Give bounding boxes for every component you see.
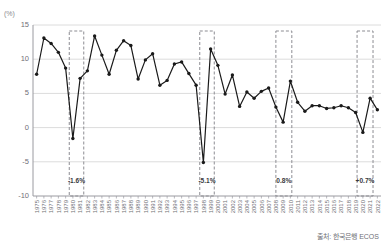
data-point-marker [252, 96, 255, 99]
x-axis-tick-label: 1999 [208, 199, 214, 213]
x-axis-tick-label: 2009 [280, 199, 286, 213]
x-axis-tick-label: 1988 [128, 199, 134, 213]
data-point-marker [100, 53, 103, 56]
data-point-marker [194, 83, 197, 86]
data-point-marker [368, 96, 371, 99]
data-point-marker [136, 77, 139, 80]
x-axis-tick-label: 1977 [48, 199, 54, 213]
x-axis-tick-label: 1994 [172, 199, 178, 213]
y-axis-tick-label: 5 [25, 88, 29, 97]
source-attribution: 출처: 한국은행 ECOS [317, 231, 379, 241]
data-point-marker [93, 34, 96, 37]
x-axis-tick-label: 1992 [157, 199, 163, 213]
data-point-marker [267, 86, 270, 89]
data-point-marker [165, 79, 168, 82]
data-point-marker [274, 105, 277, 108]
data-point-marker [144, 58, 147, 61]
x-axis-tick-label: 1976 [41, 199, 47, 213]
data-point-marker [71, 137, 74, 140]
data-point-marker [260, 90, 263, 93]
plot-area: 151050-5-10-1.6%-5.1%0.8%+0.7%1975197619… [0, 0, 385, 244]
x-axis-tick-label: 1975 [34, 199, 40, 213]
data-point-marker [173, 62, 176, 65]
x-axis-tick-label: 2006 [259, 199, 265, 213]
y-axis-tick-label: 15 [21, 20, 29, 29]
x-axis-tick-label: 1981 [77, 199, 83, 213]
x-axis-tick-label: 2001 [222, 199, 228, 213]
data-point-marker [347, 106, 350, 109]
data-point-marker [325, 107, 328, 110]
annotation-label: 0.8% [276, 177, 291, 184]
y-axis-tick-label: -5 [22, 157, 29, 166]
x-axis-tick-label: 2014 [317, 199, 323, 213]
x-axis-tick-label: 2015 [324, 199, 330, 213]
x-axis-tick-label: 1998 [201, 199, 207, 213]
x-axis-tick-label: 1991 [150, 199, 156, 213]
x-axis-tick-label: 2008 [273, 199, 279, 213]
x-axis-tick-label: 2005 [251, 199, 257, 213]
annotation-label: +0.7% [356, 177, 375, 184]
x-axis-tick-label: 1982 [85, 199, 91, 213]
x-axis-tick-label: 1984 [99, 199, 105, 213]
data-point-marker [296, 101, 299, 104]
x-axis-tick-label: 1997 [193, 199, 199, 213]
data-point-marker [209, 47, 212, 50]
data-point-marker [303, 109, 306, 112]
data-point-marker [115, 49, 118, 52]
annotation-label: -1.6% [68, 177, 85, 184]
data-point-marker [151, 52, 154, 55]
annotation-band [276, 31, 292, 196]
x-axis-tick-label: 1995 [179, 199, 185, 213]
data-point-marker [187, 72, 190, 75]
data-point-marker [122, 39, 125, 42]
data-point-marker [376, 108, 379, 111]
x-axis-tick-label: 2022 [375, 199, 381, 213]
x-axis-tick-label: 2020 [360, 199, 366, 213]
data-point-marker [339, 104, 342, 107]
y-axis-tick-label: 0 [25, 123, 29, 132]
annotation-band [357, 31, 373, 196]
data-point-marker [78, 77, 81, 80]
data-point-marker [310, 104, 313, 107]
x-axis-tick-label: 2017 [338, 199, 344, 213]
data-point-marker [86, 69, 89, 72]
annotation-label: -5.1% [198, 177, 215, 184]
data-point-marker [245, 90, 248, 93]
data-point-marker [223, 92, 226, 95]
x-axis-tick-label: 2007 [266, 199, 272, 213]
x-axis-tick-label: 1996 [186, 199, 192, 213]
data-point-marker [231, 73, 234, 76]
x-axis-tick-label: 2018 [346, 199, 352, 213]
data-point-marker [289, 79, 292, 82]
x-axis-tick-label: 1978 [56, 199, 62, 213]
gdp-growth-chart: (%) 151050-5-10-1.6%-5.1%0.8%+0.7%197519… [0, 0, 385, 244]
data-point-marker [216, 64, 219, 67]
x-axis-tick-label: 1989 [135, 199, 141, 213]
data-point-marker [332, 106, 335, 109]
data-point-marker [107, 73, 110, 76]
data-point-marker [49, 42, 52, 45]
x-axis-tick-label: 1987 [121, 199, 127, 213]
x-axis-tick-label: 2013 [309, 199, 315, 213]
x-axis-tick-label: 1979 [63, 199, 69, 213]
data-series-line [37, 36, 378, 163]
y-axis-tick-label: -10 [18, 191, 29, 200]
x-axis-tick-label: 1990 [143, 199, 149, 213]
x-axis-tick-label: 1980 [70, 199, 76, 213]
x-axis-tick-label: 1993 [164, 199, 170, 213]
x-axis-tick-label: 2002 [230, 199, 236, 213]
x-axis-tick-label: 2000 [215, 199, 221, 213]
x-axis-tick-label: 2004 [244, 199, 250, 213]
data-point-marker [42, 36, 45, 39]
data-point-marker [180, 60, 183, 63]
x-axis-tick-label: 1985 [106, 199, 112, 213]
data-point-marker [158, 83, 161, 86]
data-point-marker [57, 51, 60, 54]
x-axis-tick-label: 2010 [288, 199, 294, 213]
x-axis-tick-label: 2012 [302, 199, 308, 213]
x-axis-tick-label: 2016 [331, 199, 337, 213]
data-point-marker [129, 44, 132, 47]
data-point-marker [361, 131, 364, 134]
x-axis-tick-label: 1983 [92, 199, 98, 213]
data-point-marker [64, 66, 67, 69]
